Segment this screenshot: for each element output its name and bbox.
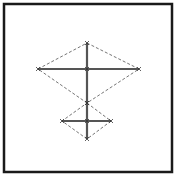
upper-diamond — [38, 43, 139, 103]
node-markers — [36, 41, 141, 141]
diagram-canvas — [0, 0, 178, 176]
upper-diamond-dashed-outline — [38, 43, 139, 103]
